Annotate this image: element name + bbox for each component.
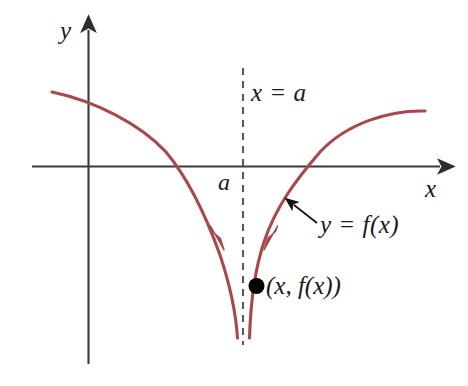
y-axis-label: y: [60, 18, 71, 43]
asymptote-tick-label: a: [218, 170, 230, 194]
limit-diagram-figure: y x x = a a y = f(x) (x, f(x)): [0, 0, 468, 386]
function-label-pointer-arrow-icon: [294, 205, 317, 223]
function-curve-label: y = f(x): [320, 212, 399, 237]
x-axis-label: x: [425, 176, 436, 201]
point-on-curve-label: (x, f(x)): [266, 273, 341, 298]
diagram-canvas: [0, 0, 468, 386]
curve-left-branch: [52, 92, 238, 338]
point-on-curve-marker: [249, 278, 265, 294]
vertical-asymptote-label: x = a: [251, 80, 306, 105]
